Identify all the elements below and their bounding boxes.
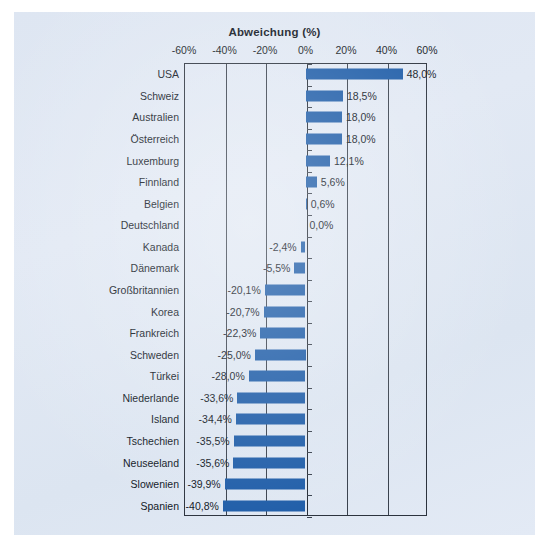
value-label-kanada: -2,4%: [269, 241, 296, 253]
value-label-australien: 18,0%: [346, 111, 376, 123]
category-label-korea: Korea: [151, 306, 179, 318]
bar-d-nemark: [294, 263, 305, 274]
bar-luxemburg: [306, 155, 331, 166]
bar-tschechien: [234, 435, 306, 446]
value-label-d-nemark: -5,5%: [263, 262, 290, 274]
chart-row: USA48,0%: [14, 63, 535, 85]
bar-frankreich: [260, 328, 305, 339]
bar-island: [236, 414, 306, 425]
chart-row: Australien18,0%: [14, 106, 535, 128]
category-label-niederlande: Niederlande: [122, 392, 179, 404]
category-label-finnland: Finnland: [139, 176, 179, 188]
value-label-korea: -20,7%: [226, 306, 259, 318]
value-label-neuseeland: -35,6%: [196, 457, 229, 469]
category-label-tschechien: Tschechien: [126, 435, 179, 447]
bar-belgien: [306, 198, 308, 209]
category-label-spanien: Spanien: [140, 500, 179, 512]
chart-row: Spanien-40,8%: [14, 494, 535, 516]
chart-row: Großbritannien-20,1%: [14, 279, 535, 301]
bar-gro-britannien: [265, 284, 306, 295]
value-label-tschechien: -35,5%: [196, 435, 229, 447]
value-label--sterreich: 18,0%: [346, 133, 376, 145]
category-label-deutschland: Deutschland: [121, 219, 179, 231]
bar-niederlande: [237, 392, 305, 403]
chart-title: Abweichung (%): [14, 26, 535, 38]
chart-row: Tschechien-35,5%: [14, 430, 535, 452]
chart-card: Abweichung (%) -60%-40%-20%0%20%40%60% U…: [14, 12, 535, 535]
x-axis-tick-neg40: -40%: [212, 44, 237, 56]
value-label-belgien: 0,6%: [311, 198, 335, 210]
bar-korea: [264, 306, 306, 317]
x-axis-tick-neg60: -60%: [172, 44, 197, 56]
chart-row: Luxemburg12,1%: [14, 149, 535, 171]
x-axis-tick-labels: -60%-40%-20%0%20%40%60%: [14, 44, 535, 60]
chart-row: Schweden-25,0%: [14, 343, 535, 365]
category-label-schweiz: Schweiz: [140, 90, 179, 102]
x-axis-tick-neg20: -20%: [253, 44, 278, 56]
category-label-belgien: Belgien: [144, 198, 179, 210]
value-label-schweiz: 18,5%: [347, 90, 377, 102]
category-label--sterreich: Österreich: [131, 133, 179, 145]
bar-t-rkei: [249, 371, 306, 382]
bar-usa: [306, 69, 403, 80]
category-label-slowenien: Slowenien: [131, 478, 179, 490]
bar-slowenien: [225, 479, 306, 490]
bar-schweden: [255, 349, 306, 360]
category-label-d-nemark: Dänemark: [131, 262, 179, 274]
bar-schweiz: [306, 90, 343, 101]
value-label-island: -34,4%: [199, 413, 232, 425]
chart-row: Belgien0,6%: [14, 192, 535, 214]
category-label-island: Island: [151, 413, 179, 425]
chart-row: Deutschland0,0%: [14, 214, 535, 236]
category-label-t-rkei: Türkei: [150, 370, 179, 382]
value-label-luxemburg: 12,1%: [334, 155, 364, 167]
chart-rows: USA48,0%Schweiz18,5%Australien18,0%Öster…: [14, 63, 535, 516]
value-label-niederlande: -33,6%: [200, 392, 233, 404]
category-label-usa: USA: [157, 68, 179, 80]
value-label-slowenien: -39,9%: [187, 478, 220, 490]
category-label-frankreich: Frankreich: [129, 327, 179, 339]
category-label-neuseeland: Neuseeland: [123, 457, 179, 469]
value-label-schweden: -25,0%: [218, 349, 251, 361]
x-axis-tick-20: 20%: [335, 44, 356, 56]
value-label-usa: 48,0%: [407, 68, 437, 80]
value-label-finnland: 5,6%: [321, 176, 345, 188]
chart-row: Niederlande-33,6%: [14, 387, 535, 409]
bar-finnland: [306, 177, 317, 188]
chart-row: Neuseeland-35,6%: [14, 451, 535, 473]
chart-row: Dänemark-5,5%: [14, 257, 535, 279]
bar-spanien: [223, 500, 306, 511]
chart-row: Frankreich-22,3%: [14, 322, 535, 344]
chart-row: Island-34,4%: [14, 408, 535, 430]
category-label-kanada: Kanada: [143, 241, 179, 253]
value-label-frankreich: -22,3%: [223, 327, 256, 339]
x-axis-tick-60: 60%: [416, 44, 437, 56]
bar-kanada: [301, 241, 306, 252]
page-caption: [28, 539, 498, 547]
value-label-gro-britannien: -20,1%: [228, 284, 261, 296]
value-label-deutschland: 0,0%: [310, 219, 334, 231]
chart-row: Österreich18,0%: [14, 128, 535, 150]
chart-row: Schweiz18,5%: [14, 85, 535, 107]
category-label-luxemburg: Luxemburg: [126, 155, 179, 167]
chart-row: Türkei-28,0%: [14, 365, 535, 387]
axis-tick-mark: [307, 517, 312, 518]
category-label-gro-britannien: Großbritannien: [109, 284, 179, 296]
bar-australien: [306, 112, 342, 123]
bar-neuseeland: [233, 457, 305, 468]
category-label-schweden: Schweden: [130, 349, 179, 361]
chart-row: Finnland5,6%: [14, 171, 535, 193]
value-label-t-rkei: -28,0%: [212, 370, 245, 382]
chart-row: Slowenien-39,9%: [14, 473, 535, 495]
category-label-australien: Australien: [132, 111, 179, 123]
value-label-spanien: -40,8%: [186, 500, 219, 512]
x-axis-tick-40: 40%: [376, 44, 397, 56]
chart-row: Korea-20,7%: [14, 300, 535, 322]
x-axis-tick-0: 0%: [298, 44, 313, 56]
bar--sterreich: [306, 133, 342, 144]
chart-row: Kanada-2,4%: [14, 236, 535, 258]
